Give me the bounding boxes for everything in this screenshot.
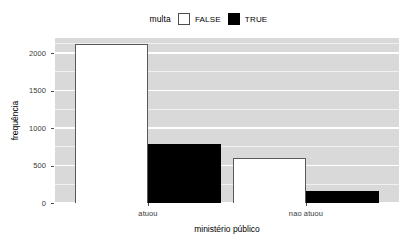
legend-item-false[interactable]: FALSE (178, 13, 221, 25)
y-axis: 0500100015002000 (0, 0, 55, 242)
y-tick-label: 2000 (16, 49, 46, 58)
y-tick-label: 500 (16, 161, 46, 170)
legend-item-true[interactable]: TRUE (228, 13, 268, 25)
y-tick-label-wrap: 1000 (14, 123, 46, 133)
y-tick-label-wrap: 500 (14, 161, 46, 171)
legend-title: multa (150, 14, 171, 24)
chart-legend: multa FALSE TRUE (0, 11, 417, 27)
y-tick-mark (51, 166, 54, 167)
y-tick-label-wrap: 0 (14, 198, 46, 208)
legend-swatch-true-icon (228, 13, 240, 25)
y-tick-label-wrap: 2000 (14, 48, 46, 58)
x-axis-title: ministério público (55, 224, 399, 234)
bar-atuou-false[interactable] (75, 44, 148, 203)
bar-atuou-true[interactable] (148, 144, 221, 203)
y-tick-label: 1500 (16, 86, 46, 95)
x-tick-mark (306, 203, 307, 206)
y-tick-label-wrap: 1500 (14, 86, 46, 96)
y-tick-label: 0 (16, 199, 46, 208)
y-tick-label: 1000 (16, 124, 46, 133)
bar-nao-atuou-false[interactable] (233, 158, 306, 203)
x-tick-mark (148, 203, 149, 206)
y-tick-mark (51, 203, 54, 204)
y-tick-mark (51, 91, 54, 92)
y-tick-mark (51, 128, 54, 129)
y-tick-mark (51, 53, 54, 54)
x-tick-label-nao-atuou: nao atuou (261, 209, 351, 218)
legend-swatch-false-icon (178, 13, 190, 25)
plot-panel (55, 38, 399, 203)
x-tick-label-atuou: atuou (103, 209, 193, 218)
chart-figure: multa FALSE TRUE frequência 050010001500… (0, 0, 417, 242)
legend-label-false: FALSE (195, 15, 221, 24)
bar-nao-atuou-true[interactable] (306, 191, 379, 203)
legend-label-true: TRUE (245, 15, 268, 24)
